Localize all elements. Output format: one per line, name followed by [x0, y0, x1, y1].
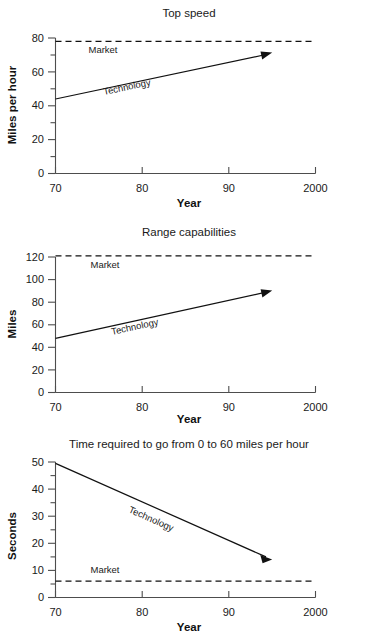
- y-tick-label: 20: [32, 364, 44, 376]
- y-tick-label: 50: [32, 456, 44, 468]
- chart-svg-range-capabilities: Range capabilities Miles 0 20 40 60 80: [0, 212, 379, 424]
- x-tick-label: 90: [223, 606, 235, 618]
- market-series-label: Market: [88, 44, 117, 55]
- y-axis-major-ticks: [48, 257, 56, 393]
- x-tick-label: 70: [49, 606, 61, 618]
- y-tick-label: 80: [32, 296, 44, 308]
- x-tick-label: 2000: [303, 401, 327, 413]
- y-axis-title: Miles: [6, 310, 18, 339]
- x-axis-ticks: [56, 591, 229, 598]
- technology-series-line: [56, 292, 267, 338]
- technology-series-label: Technology: [110, 316, 160, 337]
- y-axis-major-ticks: [48, 38, 56, 174]
- y-tick-label: 0: [38, 167, 44, 179]
- chart-title: Time required to go from 0 to 60 miles p…: [69, 438, 309, 450]
- y-tick-label: 60: [32, 318, 44, 330]
- x-tick-label: 70: [49, 401, 61, 413]
- y-tick-label: 20: [32, 537, 44, 549]
- x-axis-title: Year: [177, 413, 202, 424]
- x-axis-title: Year: [177, 197, 202, 209]
- figure-canvas: Top speed Miles per hour: [0, 0, 379, 634]
- chart-svg-top-speed: Top speed Miles per hour: [0, 0, 379, 212]
- y-tick-label: 60: [32, 66, 44, 78]
- y-tick-label: 100: [26, 273, 44, 285]
- chart-svg-acceleration-time: Time required to go from 0 to 60 miles p…: [0, 424, 379, 634]
- x-tick-label: 90: [223, 401, 235, 413]
- x-tick-label: 2000: [303, 182, 327, 194]
- x-tick-label: 80: [136, 606, 148, 618]
- y-tick-label: 120: [26, 251, 44, 263]
- x-tick-label: 80: [136, 182, 148, 194]
- technology-arrowhead-icon: [261, 52, 273, 60]
- chart-panel-range-capabilities: Range capabilities Miles 0 20 40 60 80: [0, 212, 379, 424]
- y-tick-label: 0: [38, 591, 44, 603]
- chart-panel-top-speed: Top speed Miles per hour: [0, 0, 379, 212]
- y-axis-tick-labels: 0 20 40 60 80 100 120: [26, 251, 44, 399]
- y-tick-label: 40: [32, 341, 44, 353]
- technology-arrowhead-icon: [261, 289, 273, 297]
- chart-panel-acceleration-time: Time required to go from 0 to 60 miles p…: [0, 424, 379, 634]
- chart-title: Range capabilities: [142, 226, 236, 238]
- y-tick-label: 80: [32, 32, 44, 44]
- y-tick-label: 40: [32, 483, 44, 495]
- y-axis-minor-ticks: [51, 476, 56, 584]
- chart-title: Top speed: [162, 7, 215, 19]
- x-tick-label: 80: [136, 401, 148, 413]
- x-tick-label: 70: [49, 182, 61, 194]
- y-axis-title: Miles per hour: [6, 65, 18, 144]
- x-axis-ticks: [56, 386, 229, 393]
- y-tick-label: 30: [32, 510, 44, 522]
- x-axis-tick-labels: 70 80 90 2000: [49, 182, 327, 194]
- x-tick-label: 90: [223, 182, 235, 194]
- x-tick-label: 2000: [303, 606, 327, 618]
- technology-series-line: [56, 55, 267, 100]
- technology-arrowhead-icon: [260, 555, 272, 563]
- market-series-label: Market: [90, 564, 119, 575]
- y-tick-label: 40: [32, 99, 44, 111]
- x-axis-tick-labels: 70 80 90 2000: [49, 606, 327, 618]
- market-series-label: Market: [90, 259, 119, 270]
- x-axis-ticks: [56, 167, 229, 174]
- y-axis-tick-labels: 0 20 40 60 80: [32, 32, 44, 179]
- x-axis-title: Year: [177, 621, 202, 633]
- y-tick-label: 0: [38, 386, 44, 398]
- y-axis-title: Seconds: [6, 512, 18, 560]
- technology-series-line: [56, 463, 267, 557]
- technology-series-label: Technology: [102, 76, 152, 97]
- y-tick-label: 10: [32, 564, 44, 576]
- y-axis-tick-labels: 0 10 20 30 40 50: [32, 456, 44, 603]
- technology-series-label: Technology: [127, 504, 176, 534]
- x-axis-tick-labels: 70 80 90 2000: [49, 401, 327, 413]
- y-tick-label: 20: [32, 133, 44, 145]
